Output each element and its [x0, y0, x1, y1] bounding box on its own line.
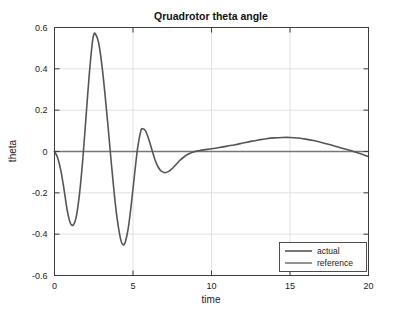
quadrotor-theta-plot: 0.60.40.20-0.2-0.4-0.6 05101520 Qruadrot… — [0, 0, 393, 319]
y-tick-label: 0 — [42, 147, 47, 157]
page-title: Qruadrotor theta angle — [154, 10, 268, 22]
legend-label-reference: reference — [317, 258, 353, 268]
y-tick-label: 0.2 — [35, 105, 48, 115]
y-tick-label: -0.6 — [32, 271, 48, 281]
x-tick-label: 5 — [130, 281, 135, 291]
x-tick-label: 20 — [363, 281, 373, 291]
x-tick-label: 0 — [52, 281, 57, 291]
y-tick-label: -0.2 — [32, 188, 48, 198]
y-axis-label: theta — [7, 139, 18, 162]
x-axis-label: time — [202, 294, 221, 305]
y-tick-label: -0.4 — [32, 229, 48, 239]
y-tick-label: 0.4 — [35, 64, 48, 74]
x-tick-label: 15 — [285, 281, 295, 291]
chart-legend[interactable]: actual reference — [280, 243, 367, 272]
x-tick-label: 10 — [206, 281, 216, 291]
chart-figure: 0.60.40.20-0.2-0.4-0.6 05101520 Qruadrot… — [0, 0, 393, 319]
legend-label-actual: actual — [317, 246, 340, 256]
y-tick-label: 0.6 — [35, 23, 48, 33]
